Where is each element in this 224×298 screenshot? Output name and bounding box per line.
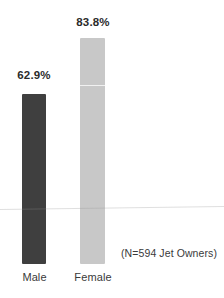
axis-label-female: Female [58, 271, 128, 283]
bar-female [80, 38, 105, 264]
sample-size-annotation: (N=594 Jet Owners) [121, 247, 217, 259]
bar-value-label-female: 83.8% [59, 16, 127, 28]
bar-chart: 62.9% 83.8% Male Female (N=594 Jet Owner… [0, 0, 224, 298]
bar-value-label-male: 62.9% [0, 69, 68, 81]
bar-male [22, 94, 46, 264]
